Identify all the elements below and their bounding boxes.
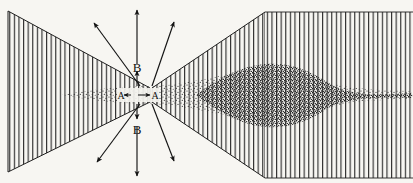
label-a-left: A [117,90,125,101]
beam-diagram: B B A A [0,0,413,183]
figure-root: B B A A [0,0,413,183]
label-b-bottom: B [133,122,142,137]
dark-lobe [0,0,413,183]
axial-arrow: A A [117,88,159,102]
label-b-top: B [133,60,142,75]
label-a-right: A [151,90,159,101]
